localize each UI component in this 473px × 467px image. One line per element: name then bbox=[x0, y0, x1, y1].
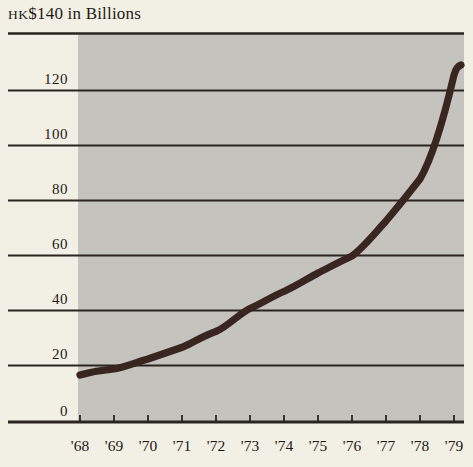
y-tick-label-120: 120 bbox=[0, 72, 68, 87]
x-tick-label-77: '77 bbox=[369, 438, 403, 454]
y-tick-label-100: 100 bbox=[0, 127, 68, 142]
chart-title-prefix: HK bbox=[8, 7, 28, 22]
x-tick-label-74: '74 bbox=[267, 438, 301, 454]
x-tick-label-79: '79 bbox=[437, 438, 471, 454]
y-tick-label-60: 60 bbox=[0, 237, 68, 252]
y-tick-label-80: 80 bbox=[0, 182, 68, 197]
x-tick-label-76: '76 bbox=[335, 438, 369, 454]
x-tick-label-69: '69 bbox=[97, 438, 131, 454]
x-tick-label-68: '68 bbox=[63, 438, 97, 454]
x-tick-label-70: '70 bbox=[131, 438, 165, 454]
y-tick-label-40: 40 bbox=[0, 292, 68, 307]
y-tick-label-20: 20 bbox=[0, 347, 68, 362]
x-tick-label-75: '75 bbox=[301, 438, 335, 454]
x-tick-label-78: '78 bbox=[403, 438, 437, 454]
x-tick-label-72: '72 bbox=[199, 438, 233, 454]
chart-title: HK$140 in Billions bbox=[8, 3, 141, 26]
plot-area bbox=[78, 34, 464, 423]
x-tick-label-71: '71 bbox=[165, 438, 199, 454]
chart-title-rest: $140 in Billions bbox=[28, 4, 141, 23]
x-tick-label-73: '73 bbox=[233, 438, 267, 454]
y-tick-label-0: 0 bbox=[0, 404, 68, 419]
chart-figure: HK$140 in Billions bbox=[0, 0, 473, 467]
